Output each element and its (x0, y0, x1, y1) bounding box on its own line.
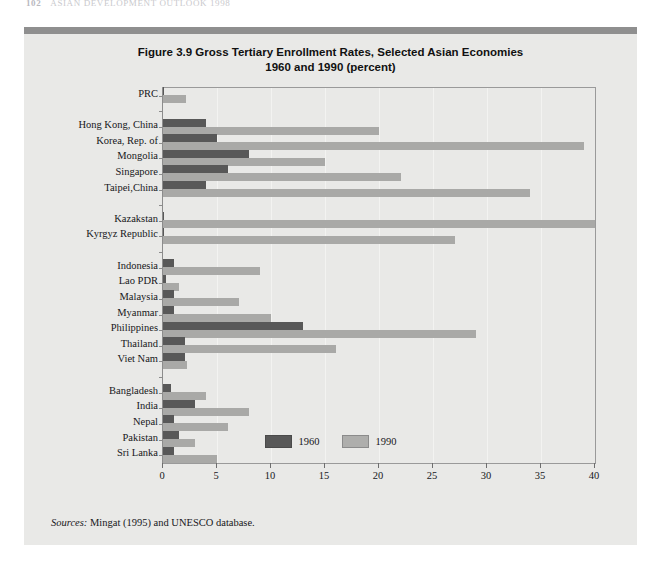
legend-label-1990: 1990 (376, 436, 397, 447)
bar-1990 (163, 361, 187, 369)
category-label: Sri Lanka (117, 448, 158, 458)
bar-1960 (163, 415, 174, 423)
x-tick-mark (486, 463, 487, 468)
category-label: Taipei,China (104, 183, 158, 193)
figure-panel: Figure 3.9 Gross Tertiary Enrollment Rat… (24, 27, 637, 545)
bar-1960 (163, 384, 171, 392)
x-tick-mark (432, 463, 433, 468)
x-tick-mark (324, 463, 325, 468)
plot-area (162, 87, 596, 464)
bar-1990 (163, 95, 186, 103)
x-tick-mark (378, 463, 379, 468)
category-tick (159, 111, 163, 112)
bar-1990 (163, 345, 336, 353)
x-axis-tick-labels: 0510152025303540 (162, 470, 595, 486)
chart-legend: 1960 1990 (24, 435, 637, 448)
category-label: Myanmar (117, 308, 158, 318)
bar-1960 (163, 228, 164, 236)
bar-1960 (163, 400, 195, 408)
x-axis-ticks (162, 463, 595, 470)
legend-item-1960: 1960 (265, 435, 320, 448)
category-tick (159, 205, 163, 206)
category-label: Indonesia (117, 261, 158, 271)
bar-1960 (163, 87, 164, 95)
category-label: Mongolia (117, 151, 158, 161)
bar-1960 (163, 150, 249, 158)
category-label: Malaysia (120, 292, 159, 302)
bar-1990 (163, 455, 217, 463)
running-head: 102ASIAN DEVELOPMENT OUTLOOK 1998 (26, 0, 230, 9)
x-tick-label: 10 (265, 470, 276, 481)
legend-item-1990: 1990 (342, 435, 397, 448)
bar-1990 (163, 298, 239, 306)
bar-1960 (163, 119, 206, 127)
sources-label: Sources: (51, 517, 87, 528)
legend-label-1960: 1960 (299, 436, 320, 447)
bar-1960 (163, 181, 206, 189)
category-label: PRC (138, 89, 158, 99)
sources-text: Mingat (1995) and UNESCO database. (87, 517, 254, 528)
x-tick-label: 15 (319, 470, 330, 481)
bar-1990 (163, 267, 260, 275)
category-tick (159, 377, 163, 378)
bar-1960 (163, 165, 228, 173)
bar-1960 (163, 275, 166, 283)
x-tick-mark (594, 463, 595, 468)
sources-note: Sources: Mingat (1995) and UNESCO databa… (51, 517, 255, 528)
bar-1990 (163, 220, 595, 228)
bar-1990 (163, 330, 476, 338)
category-label: Nepal (133, 417, 158, 427)
bar-1960 (163, 353, 185, 361)
legend-swatch-1990-icon (342, 435, 369, 448)
x-tick-mark (270, 463, 271, 468)
figure-title-line-2: 1960 and 1990 (percent) (24, 60, 637, 75)
category-label: Korea, Rep. of (96, 136, 158, 146)
running-head-text: ASIAN DEVELOPMENT OUTLOOK 1998 (50, 0, 230, 8)
category-label: Viet Nam (118, 354, 158, 364)
category-label: India (136, 401, 158, 411)
category-label: Lao PDR (119, 276, 158, 286)
figure-title: Figure 3.9 Gross Tertiary Enrollment Rat… (24, 45, 637, 75)
bar-1990 (163, 408, 249, 416)
category-label: Singapore (115, 167, 158, 177)
bar-1990 (163, 236, 455, 244)
bar-1960 (163, 259, 174, 267)
x-tick-label: 20 (373, 470, 384, 481)
panel-top-bar (24, 27, 637, 34)
category-label: Kyrgyz Republic (86, 229, 158, 239)
category-label: Hong Kong, China (78, 120, 158, 130)
category-label: Philippines (111, 323, 158, 333)
category-axis-labels: PRCHong Kong, ChinaKorea, Rep. ofMongoli… (24, 87, 158, 462)
x-tick-mark (540, 463, 541, 468)
bar-1960 (163, 337, 185, 345)
x-tick-mark (162, 463, 163, 468)
x-tick-label: 5 (213, 470, 218, 481)
bar-1990 (163, 189, 530, 197)
legend-swatch-1960-icon (265, 435, 292, 448)
category-label: Kazakstan (114, 214, 158, 224)
category-label: Bangladesh (109, 386, 158, 396)
x-tick-label: 30 (481, 470, 492, 481)
x-tick-mark (216, 463, 217, 468)
figure-title-line-1: Figure 3.9 Gross Tertiary Enrollment Rat… (24, 45, 637, 60)
bar-1960 (163, 134, 217, 142)
bar-1960 (163, 306, 174, 314)
x-tick-label: 40 (589, 470, 600, 481)
bar-1960 (163, 290, 174, 298)
x-tick-label: 35 (535, 470, 546, 481)
category-tick (159, 252, 163, 253)
x-tick-label: 25 (427, 470, 438, 481)
bar-1960 (163, 212, 164, 220)
bar-1960 (163, 322, 303, 330)
x-tick-label: 0 (159, 470, 164, 481)
page-number: 102 (26, 0, 41, 8)
category-label: Thailand (121, 339, 158, 349)
